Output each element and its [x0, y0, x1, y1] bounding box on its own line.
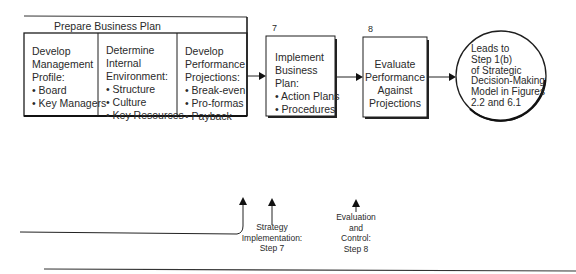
line: Projections: — [185, 71, 245, 84]
line: Profile: — [32, 71, 106, 84]
line: Control: — [326, 233, 386, 244]
line: Implement — [275, 51, 339, 64]
line: • Culture — [106, 96, 184, 109]
line: • Break-even — [185, 84, 245, 97]
step7-text: Implement Business Plan: • Action Plans … — [275, 51, 339, 116]
line: • Action Plans — [275, 90, 339, 103]
line: Evaluation — [326, 212, 386, 223]
prepare-plan-title: Prepare Business Plan — [54, 20, 161, 33]
line: Implementation: — [232, 233, 312, 244]
line: Step 7 — [232, 243, 312, 254]
line: Step 8 — [326, 244, 386, 255]
line: Plan: — [275, 77, 339, 90]
line: • Procedures — [275, 103, 339, 116]
line: Strategy — [232, 222, 312, 233]
line: Environment: — [106, 70, 184, 83]
line: • Structure — [106, 83, 184, 96]
line: and — [326, 223, 386, 234]
management-profile-text: Develop Management Profile: • Board • Ke… — [32, 45, 106, 110]
line: Step 1(b) — [471, 55, 545, 66]
strategy-implementation-label: Strategy Implementation: Step 7 — [232, 222, 312, 254]
line: Develop — [32, 45, 106, 58]
internal-environment-text: Determine Internal Environment: • Struct… — [106, 44, 184, 122]
line: • Board — [32, 84, 106, 97]
line: • Pro-formas — [185, 97, 245, 110]
line: • Payback — [185, 110, 245, 123]
line: • Key Managers — [32, 97, 106, 110]
evaluation-control-label: Evaluation and Control: Step 8 — [326, 212, 386, 254]
line: Business — [275, 64, 339, 77]
performance-projections-text: Develop Performance Projections: • Break… — [185, 45, 245, 123]
line: Against — [363, 84, 427, 97]
line: Develop — [185, 45, 245, 58]
line: • Key Resources — [106, 109, 184, 122]
line: 2.2 and 6.1 — [471, 98, 545, 109]
step7-number: 7 — [272, 22, 277, 35]
line: Projections — [363, 97, 427, 110]
line: Performance — [363, 71, 427, 84]
line: Performance — [185, 58, 245, 71]
line: Determine — [106, 44, 184, 57]
line: Internal — [106, 57, 184, 70]
line: Evaluate — [363, 58, 427, 71]
circle-text: Leads to Step 1(b) of Strategic Decision… — [471, 44, 545, 109]
step8-text: Evaluate Performance Against Projections — [363, 58, 427, 110]
step8-number: 8 — [368, 23, 373, 36]
line: Management — [32, 58, 106, 71]
